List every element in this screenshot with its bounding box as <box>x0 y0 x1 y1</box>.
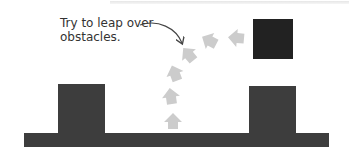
curved-pointer-arrow-icon <box>140 23 182 43</box>
floating-target-block <box>253 19 293 59</box>
jump-arrow-icon <box>164 113 182 129</box>
jump-arrow-icon <box>163 62 185 83</box>
jump-arrow-icon <box>198 29 221 52</box>
jump-path-arrows <box>161 28 245 129</box>
right-obstacle <box>249 86 296 134</box>
jump-arrow-icon <box>176 42 200 66</box>
left-obstacle <box>58 84 105 134</box>
jump-arrow-icon <box>161 87 181 105</box>
ground-platform <box>24 133 329 147</box>
jump-arrow-icon <box>227 28 245 47</box>
diagram-overlay <box>0 0 349 155</box>
